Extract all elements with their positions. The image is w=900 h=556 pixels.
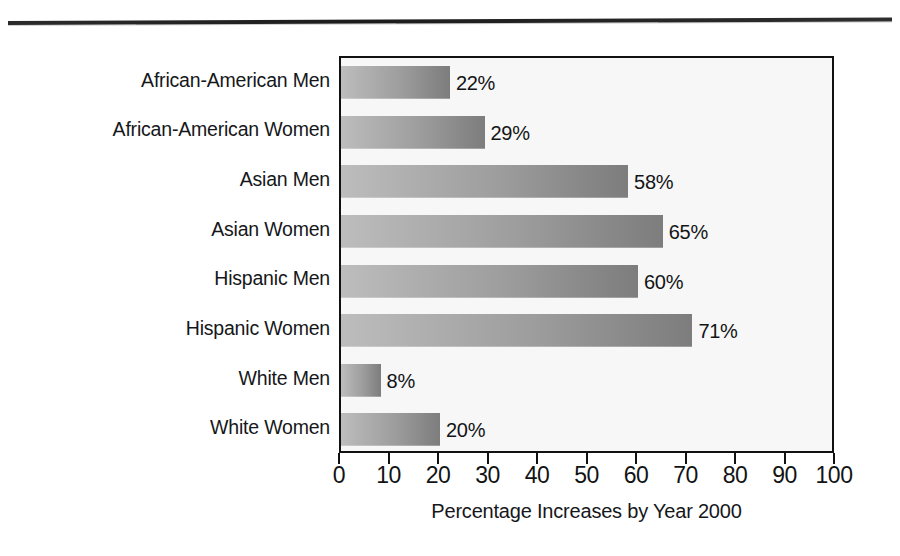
category-label: Hispanic Men [20, 269, 330, 289]
bar-value-label: 58% [634, 166, 673, 198]
x-axis-tick-label: 90 [772, 462, 797, 489]
category-label: Hispanic Women [20, 319, 330, 339]
category-label: Asian Women [20, 220, 330, 240]
x-axis-tick-label: 100 [816, 462, 853, 489]
bar-value-label: 29% [491, 117, 530, 149]
category-label: White Women [20, 418, 330, 438]
bar-row: 22% [341, 58, 832, 108]
category-label: Asian Men [20, 170, 330, 190]
x-axis-tick-label: 30 [475, 462, 500, 489]
bar [341, 413, 440, 446]
x-axis-tick-label: 0 [333, 462, 345, 489]
x-axis-tick-label: 20 [426, 462, 451, 489]
bar-row: 65% [341, 207, 832, 257]
x-axis-tick-label: 40 [525, 462, 550, 489]
top-divider-rule [8, 18, 892, 25]
bar [341, 165, 628, 198]
x-axis-tick-label: 50 [574, 462, 599, 489]
category-axis-labels: African-American MenAfrican-American Wom… [20, 56, 330, 453]
bar-row: 60% [341, 257, 832, 307]
bars-container: 22%29%58%65%60%71%8%20% [341, 58, 832, 451]
category-label: African-American Women [20, 120, 330, 140]
bar-row: 71% [341, 306, 832, 356]
bar-value-label: 8% [387, 365, 415, 397]
bar [341, 364, 381, 397]
bar [341, 314, 692, 347]
bar-chart-figure: African-American MenAfrican-American Wom… [0, 0, 900, 556]
x-axis-tick-label: 80 [723, 462, 748, 489]
x-axis-title: Percentage Increases by Year 2000 [339, 500, 834, 523]
bar-row: 29% [341, 108, 832, 158]
x-axis-tick-labels: 0102030405060708090100 [339, 462, 834, 494]
bar-value-label: 65% [669, 216, 708, 248]
x-axis-tick-label: 60 [624, 462, 649, 489]
bar-value-label: 60% [644, 266, 683, 298]
bar-row: 20% [341, 405, 832, 455]
x-axis-tick-label: 10 [376, 462, 401, 489]
bar-row: 58% [341, 157, 832, 207]
bar [341, 66, 450, 99]
bar [341, 215, 663, 248]
x-axis-tick-label: 70 [673, 462, 698, 489]
bar [341, 116, 485, 149]
bar-value-label: 71% [698, 315, 737, 347]
bar [341, 265, 638, 298]
bar-value-label: 20% [446, 414, 485, 446]
bar-value-label: 22% [456, 67, 495, 99]
plot-area: 22%29%58%65%60%71%8%20% [339, 56, 834, 453]
category-label: African-American Men [20, 71, 330, 91]
category-label: White Men [20, 369, 330, 389]
bar-row: 8% [341, 356, 832, 406]
